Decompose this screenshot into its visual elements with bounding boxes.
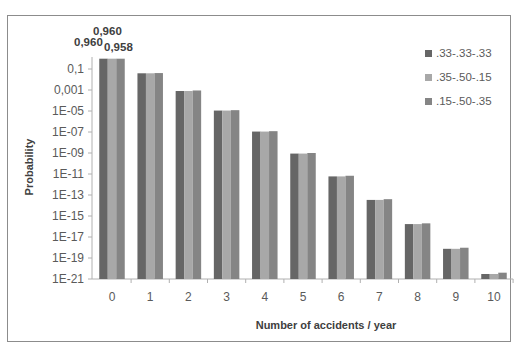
- x-tick-label: 4: [261, 290, 268, 304]
- bar: [367, 200, 376, 279]
- x-tick-label: 3: [223, 290, 230, 304]
- bar: [498, 273, 507, 279]
- y-tick-label: 1E-21: [52, 272, 84, 286]
- bar: [214, 111, 223, 279]
- bar: [154, 73, 163, 279]
- y-axis: 0,10,0011E-051E-071E-091E-111E-131E-151E…: [52, 57, 92, 286]
- y-tick-label: 1E-11: [53, 167, 84, 181]
- x-tick-label: 1: [147, 290, 154, 304]
- bar: [176, 91, 185, 279]
- x-tick-label: 6: [338, 290, 345, 304]
- x-tick-label: 8: [414, 290, 421, 304]
- bar: [405, 224, 414, 279]
- bars: [99, 59, 507, 279]
- x-tick-label: 2: [185, 290, 192, 304]
- bar: [231, 110, 240, 279]
- bar: [413, 224, 422, 279]
- bar: [481, 274, 490, 279]
- data-label: 0,958: [104, 41, 133, 53]
- x-tick-label: 0: [109, 290, 116, 304]
- bar-chart: 0,10,0011E-051E-071E-091E-111E-131E-151E…: [0, 0, 521, 349]
- bar: [443, 249, 452, 279]
- bar: [261, 132, 270, 279]
- bar: [375, 200, 384, 279]
- x-tick-label: 5: [300, 290, 307, 304]
- y-tick-label: 1E-15: [52, 209, 84, 223]
- data-label: 0,960: [93, 25, 122, 37]
- bar: [108, 59, 117, 279]
- y-tick-label: 1E-09: [52, 146, 84, 160]
- y-tick-label: 0,1: [67, 62, 84, 76]
- y-tick-label: 1E-17: [52, 230, 84, 244]
- bar: [252, 132, 260, 279]
- legend-swatch: [425, 74, 432, 81]
- bar: [345, 176, 354, 279]
- bar: [290, 154, 299, 279]
- bar: [328, 176, 337, 279]
- y-tick-label: 1E-13: [52, 188, 84, 202]
- legend-swatch: [425, 50, 432, 57]
- bar: [184, 91, 193, 279]
- legend: .33-.33-.33.35-.50-.15.15-.50-.35: [425, 47, 492, 107]
- x-tick-label: 9: [452, 290, 459, 304]
- bar: [269, 131, 278, 279]
- bar: [307, 153, 316, 279]
- bar: [337, 176, 346, 279]
- y-tick-label: 1E-19: [52, 251, 84, 265]
- bar: [299, 154, 308, 279]
- legend-label: .15-.50-.35: [436, 95, 492, 107]
- bar: [490, 274, 499, 279]
- y-tick-label: 0,001: [54, 83, 84, 97]
- legend-label: .35-.50-.15: [436, 71, 492, 83]
- bar: [222, 111, 231, 279]
- bar: [116, 59, 125, 279]
- bar: [137, 73, 146, 279]
- legend-label: .33-.33-.33: [436, 47, 492, 59]
- bar: [452, 249, 461, 279]
- bar: [193, 90, 202, 279]
- y-tick-label: 1E-05: [52, 104, 84, 118]
- data-label: 0,960: [74, 36, 103, 48]
- x-axis: 012345678910: [92, 279, 513, 304]
- x-tick-label: 10: [487, 290, 501, 304]
- bar: [99, 59, 108, 279]
- x-tick-label: 7: [376, 290, 383, 304]
- data-labels: 0,9600,9600,958: [74, 25, 133, 53]
- y-axis-title: Probability: [23, 138, 35, 196]
- bar: [422, 223, 431, 279]
- bar: [384, 199, 393, 279]
- y-tick-label: 1E-07: [52, 125, 84, 139]
- bar: [146, 73, 155, 279]
- bar: [460, 248, 469, 279]
- legend-swatch: [425, 98, 432, 105]
- x-axis-title: Number of accidents / year: [256, 319, 397, 331]
